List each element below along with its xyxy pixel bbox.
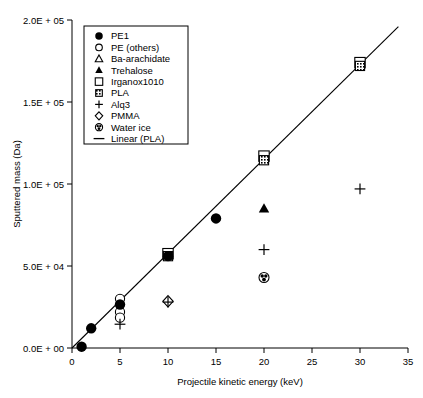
marker-data-point (355, 61, 364, 70)
circled-dot-b (99, 125, 101, 127)
hatched-square-icon (96, 90, 103, 97)
circled-dot-a (261, 274, 264, 277)
legend-label: PMMA (111, 110, 140, 121)
marker-legend-symbol (96, 90, 103, 97)
x-tick-label: 30 (355, 356, 366, 367)
x-tick-label: 35 (403, 356, 414, 367)
circled-dot-a (96, 125, 98, 127)
legend-label: PE1 (111, 30, 129, 41)
x-axis-title: Projectile kinetic energy (keV) (177, 376, 303, 387)
marker-data-point (163, 251, 173, 261)
series-pla (163, 61, 364, 260)
open-square-icon (95, 78, 102, 85)
filled-circle-icon (95, 32, 102, 39)
filled-circle-icon (76, 341, 86, 351)
circled-dot-c (262, 278, 266, 282)
legend-label: PE (others) (111, 42, 159, 53)
marker-data-point (86, 323, 96, 333)
marker-data-point (355, 184, 366, 195)
filled-circle-icon (211, 213, 221, 223)
circled-dot-b (264, 274, 267, 277)
legend-label: Alq3 (111, 99, 130, 110)
legend-label: Trehalose (111, 65, 153, 76)
marker-legend-symbol (95, 124, 102, 131)
x-axis-ticks: 05101520253035 (69, 348, 413, 367)
filled-triangle-icon (259, 203, 269, 212)
x-tick-label: 20 (259, 356, 270, 367)
x-tick-label: 25 (307, 356, 318, 367)
legend-label: Irganox1010 (111, 76, 164, 87)
x-tick-label: 15 (211, 356, 222, 367)
y-tick-label: 1.0E + 05 (23, 179, 64, 190)
y-axis-ticks: 0.0E + 005.0E + 041.0E + 051.5E + 052.0E… (23, 15, 72, 354)
scatter-chart-figure: 0.0E + 005.0E + 041.0E + 051.5E + 052.0E… (0, 0, 423, 398)
marker-data-point (259, 156, 268, 165)
circled-dot-c (98, 127, 101, 130)
series-alq3 (115, 184, 366, 330)
marker-data-point (76, 341, 86, 351)
y-tick-label: 0.0E + 00 (23, 343, 64, 354)
hatched-square-icon (355, 61, 364, 70)
y-tick-label: 2.0E + 05 (23, 15, 64, 26)
hatched-square-icon (259, 156, 268, 165)
marker-data-point (259, 244, 270, 255)
legend-label: Linear (PLA) (111, 133, 164, 144)
marker-data-point (259, 203, 269, 212)
marker-data-point (163, 297, 174, 308)
y-tick-label: 5.0E + 04 (23, 261, 64, 272)
legend-label: Ba-arachidate (111, 53, 170, 64)
x-tick-label: 10 (163, 356, 174, 367)
marker-legend-symbol (95, 78, 102, 85)
marker-data-point (115, 299, 125, 309)
marker-data-point (211, 213, 221, 223)
marker-legend-symbol (96, 44, 103, 51)
filled-circle-icon (163, 251, 173, 261)
legend: PE1PE (others)Ba-arachidateTrehaloseIrga… (84, 26, 188, 144)
marker-data-point (259, 272, 269, 282)
legend-label: Water ice (111, 122, 151, 133)
filled-circle-icon (86, 323, 96, 333)
y-axis-title: Sputtered mass (Da) (11, 140, 22, 228)
marker-legend-symbol (95, 32, 102, 39)
y-tick-label: 1.5E + 05 (23, 97, 64, 108)
series-water-ice (259, 272, 269, 282)
series-trehalose (259, 203, 269, 212)
legend-label: PLA (111, 87, 130, 98)
x-tick-label: 0 (69, 356, 74, 367)
open-circle-icon (96, 44, 103, 51)
series-pe1 (76, 213, 221, 352)
x-tick-label: 5 (117, 356, 122, 367)
filled-circle-icon (115, 299, 125, 309)
chart-canvas: 0.0E + 005.0E + 041.0E + 051.5E + 052.0E… (0, 0, 423, 398)
